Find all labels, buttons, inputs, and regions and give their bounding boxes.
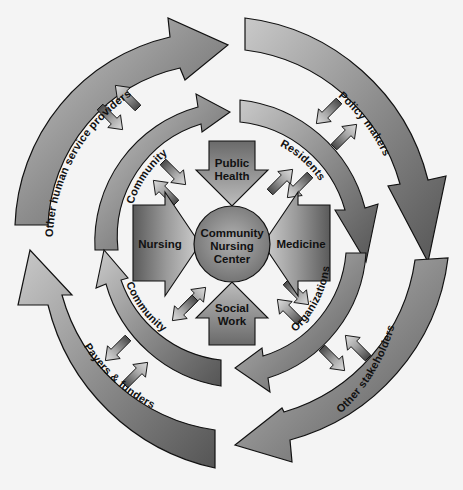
center-label-line2: Nursing — [210, 240, 253, 252]
medicine-label: Medicine — [276, 238, 325, 250]
social-work-label-line1: Social — [215, 302, 249, 314]
nursing-label: Nursing — [138, 238, 181, 250]
community-nursing-center-diagram: Community Nursing Center Public Health S… — [0, 0, 463, 490]
social-work-label-line2: Work — [218, 315, 247, 327]
center-label-line3: Center — [214, 253, 251, 265]
public-health-label-line2: Health — [214, 170, 249, 182]
center-label-line1: Community — [200, 227, 264, 239]
public-health-label-line1: Public — [215, 157, 250, 169]
